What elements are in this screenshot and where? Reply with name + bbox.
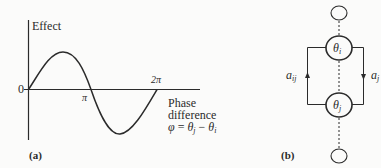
subscript: i (339, 47, 341, 56)
node-top-small (331, 6, 347, 20)
y-axis-label: Effect (32, 20, 61, 32)
equals: = (175, 120, 188, 134)
phi-symbol: φ (168, 120, 175, 134)
panel-a-label: (a) (29, 149, 42, 161)
tick-label-pi: π (82, 93, 87, 103)
node-theta-j-label: θj (333, 99, 341, 111)
arrow-up-icon (305, 72, 310, 78)
subscript: j (377, 74, 379, 83)
x-axis-formula: φ = θj − θi (168, 121, 216, 133)
edge-left (308, 48, 327, 105)
effect-curve (29, 52, 158, 134)
subscript: j (339, 104, 341, 113)
node-bottom-small (331, 149, 347, 163)
origin-label: 0 (18, 83, 24, 95)
edge-label-aj: aj (371, 69, 379, 81)
edge-label-aij: aij (286, 69, 296, 81)
arrow-down-icon (361, 74, 366, 80)
subscript: ij (292, 74, 296, 83)
tick-label-2pi: 2π (151, 75, 161, 85)
sub-i: i (214, 126, 216, 135)
minus: − (196, 120, 209, 134)
panel-b-label: (b) (281, 149, 294, 161)
node-theta-i-label: θi (333, 42, 341, 54)
edge-right (352, 48, 364, 105)
